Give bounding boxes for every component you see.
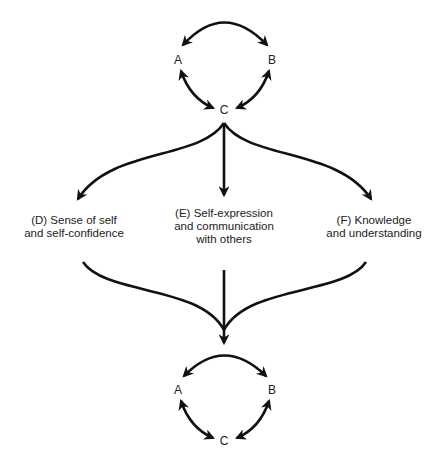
branch-arrows — [78, 123, 371, 199]
bottom-cycle — [181, 356, 269, 439]
top-arc-a-c — [181, 71, 213, 108]
top-arc-a-b — [183, 23, 267, 46]
top-node-b: B — [262, 54, 282, 66]
bottom-node-a: A — [168, 384, 188, 396]
bottom-node-c: C — [214, 435, 234, 447]
bottom-arc-a-b — [184, 356, 266, 377]
outcome-e-line-1: (E) Self-expression — [174, 207, 274, 220]
bottom-arc-b-c — [237, 401, 269, 438]
top-node-a: A — [168, 54, 188, 66]
curve-from-d — [83, 262, 224, 330]
curve-from-f — [224, 262, 366, 330]
outcome-f-label: (F) Knowledge and understanding — [326, 214, 421, 240]
outcome-d-line-2: and self-confidence — [24, 227, 124, 240]
arrow-to-f — [224, 123, 371, 199]
outcome-d-label: (D) Sense of self and self-confidence — [24, 214, 124, 240]
outcome-d-line-1: (D) Sense of self — [24, 214, 124, 227]
top-cycle — [181, 23, 269, 109]
merge-arrows — [83, 262, 366, 343]
arrow-to-d — [78, 123, 224, 199]
outcome-f-line-2: and understanding — [326, 227, 421, 240]
outcome-e-label: (E) Self-expression and communication wi… — [174, 207, 274, 246]
top-arc-b-c — [237, 71, 269, 108]
bottom-arc-a-c — [181, 401, 213, 438]
outcome-e-line-3: with others — [174, 233, 274, 246]
bottom-node-b: B — [262, 384, 282, 396]
outcome-f-line-1: (F) Knowledge — [326, 214, 421, 227]
top-node-c: C — [214, 104, 234, 116]
outcome-e-line-2: and communication — [174, 220, 274, 233]
